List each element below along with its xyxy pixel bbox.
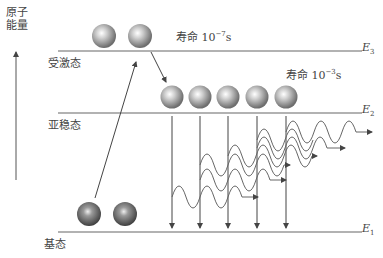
pump-arrow [95, 62, 136, 198]
atom-ground [77, 202, 101, 226]
atom-metastable [246, 86, 269, 109]
energy-axis-label: 原子 能量 [6, 6, 28, 32]
e2-lifetime: 寿命 10−3s [286, 66, 341, 82]
atom-ground [113, 202, 137, 226]
level-e1-name: 基态 [44, 238, 66, 251]
e2-symbol: E2 [362, 103, 375, 121]
photon-waves [172, 121, 372, 208]
atom-excited [128, 24, 152, 48]
e3-lifetime: 寿命 10−7s [176, 28, 231, 44]
level-e3-name: 受激态 [48, 57, 81, 70]
level-e2-name: 亚稳态 [48, 119, 81, 132]
atom-excited [92, 24, 116, 48]
atom-metastable [189, 86, 212, 109]
e3-symbol: E3 [362, 41, 375, 59]
atom-metastable [275, 86, 298, 109]
e1-symbol: E1 [362, 222, 375, 240]
relaxation-arrow [151, 52, 166, 82]
decay-arrows [172, 116, 286, 228]
atom-metastable [217, 86, 240, 109]
atom-metastable [161, 86, 184, 109]
